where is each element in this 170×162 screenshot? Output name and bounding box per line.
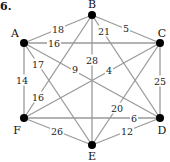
graph-edges: [24, 15, 160, 145]
vertex-label-c: C: [158, 27, 166, 40]
graph-nodes: ABCDEF: [10, 0, 167, 161]
edge-weight-b-f: 16: [32, 92, 44, 103]
edge-weight-b-e: 28: [86, 55, 98, 66]
vertex-f: [20, 114, 28, 122]
edge-weight-f-d: 6: [131, 113, 137, 124]
edge-weight-a-d: 9: [72, 64, 78, 75]
vertex-label-f: F: [13, 124, 21, 137]
weighted-complete-graph: 18169171452128164202561226 ABCDEF: [0, 0, 170, 161]
vertex-b: [88, 11, 96, 19]
vertex-c: [156, 39, 164, 47]
edge-weight-c-d: 25: [154, 76, 166, 87]
edge-weight-a-e: 17: [32, 59, 44, 70]
edge-weight-b-c: 5: [123, 23, 129, 34]
edge-weight-a-b: 18: [52, 24, 64, 35]
vertex-label-a: A: [10, 27, 20, 40]
edge-weight-f-e: 26: [51, 126, 63, 137]
vertex-d: [156, 114, 164, 122]
edge-weight-d-e: 12: [121, 126, 133, 137]
edge-weight-a-f: 14: [16, 75, 28, 86]
vertex-label-e: E: [88, 150, 96, 162]
vertex-label-d: D: [158, 124, 167, 137]
edge-weight-b-d: 21: [98, 26, 110, 37]
edge-weight-c-f: 4: [106, 65, 112, 76]
edge-weight-a-c: 16: [48, 38, 60, 49]
vertex-a: [20, 39, 28, 47]
vertex-e: [88, 141, 96, 149]
vertex-label-b: B: [88, 0, 96, 11]
edge-weight-c-e: 20: [111, 103, 123, 114]
